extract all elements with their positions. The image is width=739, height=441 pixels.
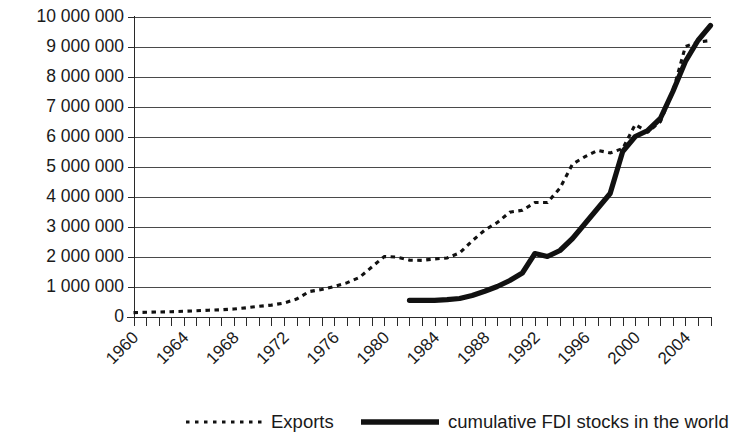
y-axis-tick-labels: 10 000 0009 000 0008 000 0007 000 0006 0… (36, 6, 133, 326)
chart-container: 10 000 0009 000 0008 000 0007 000 0006 0… (0, 0, 739, 441)
x-axis-tick-label: 1992 (504, 328, 544, 368)
x-axis-tick-labels: 1960196419681972197619801984198819921996… (102, 328, 694, 368)
series-line-solid (409, 26, 710, 301)
y-axis-tick-label: 4 000 000 (46, 186, 124, 206)
y-axis-tick-label: 9 000 000 (46, 36, 124, 56)
x-axis-tick-label: 1980 (353, 328, 393, 368)
line-chart: 10 000 0009 000 0008 000 0007 000 0006 0… (0, 0, 739, 441)
gridlines-group (134, 18, 711, 318)
x-axis-tick-label: 1984 (403, 328, 443, 368)
x-axis-tick-label: 1996 (554, 328, 594, 368)
x-axis-tick-label: 1968 (202, 328, 242, 368)
legend-label: cumulative FDI stocks in the world (448, 411, 729, 432)
x-axis-tick-label: 1972 (253, 328, 293, 368)
y-axis-tick-label: 10 000 000 (36, 6, 124, 26)
x-axis-tick-label: 1976 (303, 328, 343, 368)
x-axis-tick-label: 1988 (453, 328, 493, 368)
x-axis-tick-label: 1964 (152, 328, 192, 368)
chart-legend: Exportscumulative FDI stocks in the worl… (186, 411, 729, 432)
y-axis-tick-label: 8 000 000 (46, 66, 124, 86)
y-axis-tick-label: 5 000 000 (46, 156, 124, 176)
legend-label: Exports (271, 411, 334, 432)
y-axis-tick-label: 2 000 000 (46, 246, 124, 266)
y-axis-tick-label: 0 (114, 306, 124, 326)
y-axis-tick-label: 3 000 000 (46, 216, 124, 236)
y-axis-tick-label: 6 000 000 (46, 126, 124, 146)
x-axis-tick-label: 1960 (102, 328, 142, 368)
series-line-dotted (134, 41, 711, 313)
x-axis-tick-label: 2004 (654, 328, 694, 368)
y-axis-tick-label: 1 000 000 (46, 276, 124, 296)
data-series-group (134, 26, 711, 313)
y-axis-tick-label: 7 000 000 (46, 96, 124, 116)
x-axis-tick-label: 2000 (604, 328, 644, 368)
